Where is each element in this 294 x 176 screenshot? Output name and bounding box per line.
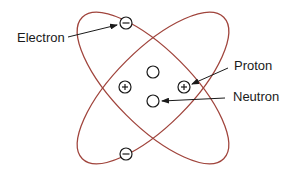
- proton-right: [178, 81, 190, 93]
- electron-top: [120, 17, 132, 29]
- neutron-label: Neutron: [233, 90, 279, 103]
- electron-leader: [68, 25, 117, 37]
- proton-label: Proton: [234, 59, 272, 72]
- orbit-2: [55, 0, 250, 176]
- neutron-top: [147, 66, 159, 78]
- orbit-1: [55, 0, 250, 176]
- electron-bottom: [120, 148, 132, 160]
- orbits: [55, 0, 250, 176]
- neutron-bottom: [147, 95, 159, 107]
- proton-leader: [192, 68, 228, 84]
- atom-diagram: [0, 0, 294, 176]
- proton-left: [119, 81, 131, 93]
- electron-label: Electron: [17, 31, 65, 44]
